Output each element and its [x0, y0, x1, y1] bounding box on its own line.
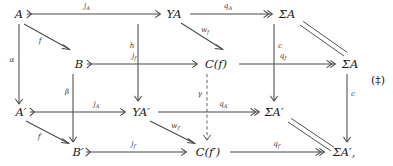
arrow-jf [87, 60, 197, 68]
arrow-label-beta: β [64, 87, 69, 96]
node-Bprime: B′ [71, 145, 83, 159]
arrow-label-jA: jA [82, 1, 90, 11]
arrow-label-alpha: α [10, 55, 15, 64]
arrow-c-right [344, 74, 351, 142]
arrow-gamma [204, 74, 211, 140]
arrow-eq-bottom [288, 118, 334, 151]
arrow-jA [27, 10, 160, 18]
commutative-diagram-figure: YA (mono, tailed arrow) --> jA qA A YA Σ… [0, 0, 393, 166]
node-A: A [14, 7, 23, 21]
arrow-qfprime [230, 149, 324, 156]
arrow-label-jfprime: jf′ [129, 139, 137, 150]
arrow-label-jf: jf [130, 51, 137, 62]
arrow-label-fprime: f′ [37, 132, 43, 141]
arrow-c-top [271, 24, 278, 101]
arrow-f [24, 24, 70, 50]
arrow-h [135, 24, 142, 101]
node-Aprime: A′ [15, 105, 27, 119]
arrow-jfprime [86, 148, 186, 156]
arrow-label-wfprime: wf′ [171, 121, 181, 132]
node-SigmaAprime-2: ΣA′, [332, 145, 356, 159]
equation-tag: (‡) [371, 74, 385, 87]
node-SigmaA-2: ΣA [341, 57, 358, 71]
node-YA: YA [166, 7, 181, 21]
arrow-qA [190, 11, 272, 18]
arrow-label-qA: qA [224, 1, 233, 11]
arrow-fprime [26, 121, 69, 144]
node-Cfprime: C(f′) [196, 145, 221, 159]
arrow-label-c-top: c [278, 41, 282, 50]
arrow-label-wf: wf [201, 25, 210, 36]
arrow-label-h: h [130, 41, 135, 50]
diagram-canvas: YA (mono, tailed arrow) --> jA qA A YA Σ… [0, 0, 393, 166]
arrow-eq-top [300, 21, 347, 56]
node-B: B [74, 57, 83, 71]
arrow-label-c-right: c [351, 89, 355, 98]
node-SigmaAprime: ΣA′ [263, 105, 283, 119]
arrow-qAprime [158, 109, 259, 116]
arrow-qf [239, 61, 335, 68]
node-YAprime: YA′ [132, 105, 150, 119]
arrow-jAprime [30, 108, 125, 116]
arrow-label-qfprime: qf′ [273, 139, 282, 150]
arrow-label-gamma: γ [198, 89, 203, 98]
arrow-beta [70, 74, 77, 142]
arrow-label-f: f [38, 36, 43, 45]
arrow-label-qAprime: qA′ [219, 99, 229, 109]
node-SigmaA: ΣA [278, 7, 295, 21]
arrow-label-qf: qf [280, 51, 288, 62]
arrow-alpha [16, 24, 23, 104]
node-Cf: C(f) [205, 57, 227, 71]
arrow-label-jAprime: jA′ [91, 99, 101, 109]
